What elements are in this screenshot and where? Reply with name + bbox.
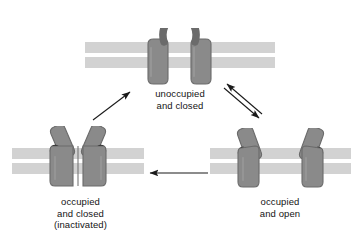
unoccupied-closed-graphic xyxy=(85,28,275,86)
label-unoccupied-closed: unoccupied and closed xyxy=(105,88,255,111)
channel-subunit-right xyxy=(81,126,108,186)
label-line-1: occupied xyxy=(230,196,330,208)
occupied-closed-inactivated-graphic xyxy=(12,126,144,192)
state-occupied-open xyxy=(210,128,351,192)
label-line-1: occupied xyxy=(28,196,133,208)
channel-subunit-left xyxy=(48,126,75,186)
label-occupied-closed-inactivated: occupied and closed (inactivated) xyxy=(28,196,133,231)
state-occupied-closed-inactivated xyxy=(12,126,144,192)
membrane-bottom-right xyxy=(210,148,351,174)
label-line-3: (inactivated) xyxy=(28,219,133,231)
channel-subunit-left xyxy=(236,128,262,187)
label-occupied-open: occupied and open xyxy=(230,196,330,219)
channel-subunit-right xyxy=(299,128,325,187)
channel-subunit-left xyxy=(148,28,168,84)
label-line-2: and closed xyxy=(28,208,133,220)
label-line-1: unoccupied xyxy=(105,88,255,100)
diagram-canvas: unoccupied and closed xyxy=(0,0,351,242)
occupied-open-graphic xyxy=(210,128,351,192)
membrane-top xyxy=(85,42,275,68)
channel-subunit-right xyxy=(191,28,211,84)
state-unoccupied-closed xyxy=(85,28,275,86)
label-line-2: and open xyxy=(230,208,330,220)
label-line-2: and closed xyxy=(105,100,255,112)
